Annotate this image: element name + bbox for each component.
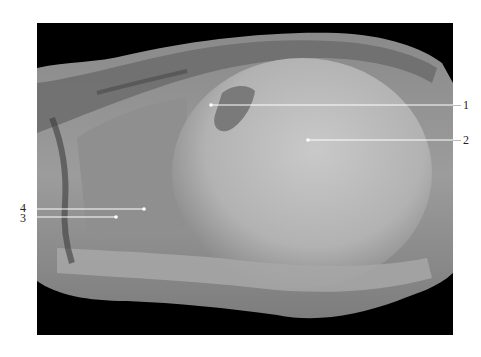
leader-dot-3 bbox=[114, 215, 118, 219]
leader-ext-1 bbox=[453, 105, 461, 106]
heart-pericardium bbox=[172, 58, 432, 288]
specimen-illustration bbox=[37, 23, 453, 335]
leader-dot-4 bbox=[142, 207, 146, 211]
leader-dot-1 bbox=[209, 103, 213, 107]
label-1: 1 bbox=[463, 99, 469, 111]
label-3: 3 bbox=[20, 212, 26, 224]
label-2: 2 bbox=[463, 134, 469, 146]
leader-ext-2 bbox=[453, 140, 461, 141]
leader-dot-2 bbox=[306, 138, 310, 142]
specimen-photo bbox=[37, 23, 453, 335]
